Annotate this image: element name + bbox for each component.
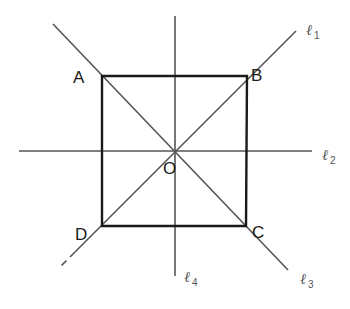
line-label-l3-main: ℓ bbox=[300, 270, 306, 288]
point-label-c: C bbox=[252, 223, 264, 242]
line-label-l2-main: ℓ bbox=[322, 146, 328, 164]
diagram-canvas: A B C D O ℓ 1 ℓ 2 ℓ 3 ℓ 4 bbox=[0, 0, 350, 309]
line-label-l1: ℓ 1 bbox=[306, 21, 320, 41]
point-label-o: O bbox=[163, 159, 176, 178]
line-label-l1-main: ℓ bbox=[306, 21, 312, 39]
square-symmetry-diagram: A B C D O ℓ 1 ℓ 2 ℓ 3 ℓ 4 bbox=[0, 0, 350, 309]
line-label-l3: ℓ 3 bbox=[300, 270, 314, 290]
line-label-l2: ℓ 2 bbox=[322, 146, 336, 166]
line-l1 bbox=[75, 31, 296, 252]
line-label-l4-main: ℓ bbox=[184, 268, 190, 286]
point-label-d: D bbox=[75, 225, 87, 244]
point-label-a: A bbox=[73, 68, 85, 87]
line-label-l4: ℓ 4 bbox=[184, 268, 198, 288]
line-label-l4-subscript: 4 bbox=[192, 277, 198, 288]
point-label-b: B bbox=[251, 66, 262, 85]
line-label-l1-subscript: 1 bbox=[314, 30, 320, 41]
line-label-l3-subscript: 3 bbox=[308, 279, 314, 290]
line-label-l2-subscript: 2 bbox=[330, 155, 336, 166]
line-l1-dashed-extension bbox=[59, 252, 75, 268]
